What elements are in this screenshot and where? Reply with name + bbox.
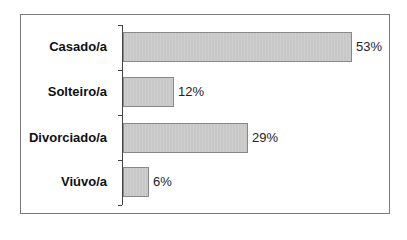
value-label-solteiro: 12%: [178, 85, 204, 99]
value-label-viuvo: 6%: [153, 175, 172, 189]
category-label-viuvo: Viúvo/a: [61, 175, 107, 189]
value-label-casado: 53%: [356, 40, 382, 54]
y-axis-tick: [118, 115, 122, 116]
bar-divorciado: [123, 123, 248, 153]
bar-casado: [123, 32, 352, 62]
y-axis-tick: [118, 205, 122, 206]
bar-viuvo: [123, 167, 149, 197]
bar-solteiro: [123, 77, 174, 107]
value-label-divorciado: 29%: [252, 131, 278, 145]
y-axis-tick: [118, 70, 122, 71]
category-label-casado: Casado/a: [49, 40, 107, 54]
category-label-solteiro: Solteiro/a: [48, 85, 107, 99]
category-label-divorciado: Divorciado/a: [29, 131, 107, 145]
y-axis-tick: [118, 160, 122, 161]
y-axis-tick: [118, 25, 122, 26]
